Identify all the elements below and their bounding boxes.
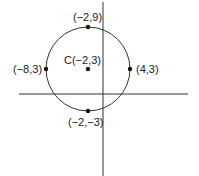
point-center bbox=[86, 67, 90, 71]
point-left bbox=[44, 67, 48, 71]
point-right bbox=[128, 67, 132, 71]
point-top bbox=[86, 25, 90, 29]
label-bottom: (−2,−3) bbox=[68, 116, 103, 128]
label-right: (4,3) bbox=[136, 63, 159, 75]
label-center: C(−2,3) bbox=[64, 54, 101, 66]
coordinate-diagram: (−2,9) (−8,3) (4,3) (−2,−3) C(−2,3) bbox=[0, 0, 199, 176]
label-top: (−2,9) bbox=[73, 11, 102, 23]
label-left: (−8,3) bbox=[13, 63, 42, 75]
point-bottom bbox=[86, 109, 90, 113]
